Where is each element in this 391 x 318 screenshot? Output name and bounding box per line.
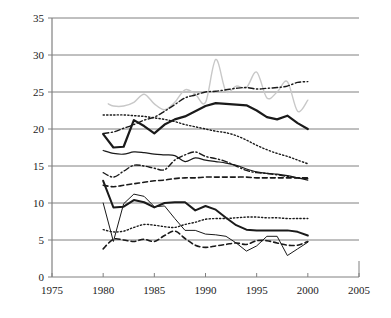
x-tick-label: 2005 bbox=[348, 285, 370, 296]
series-line-series-1-gray-solid bbox=[108, 59, 308, 111]
y-tick-label: 15 bbox=[0, 161, 44, 172]
y-tick-label: 35 bbox=[0, 13, 44, 24]
series-line-series-7-dashed-mid bbox=[103, 177, 308, 187]
line-chart: 05101520253035 1975198019851990199520002… bbox=[0, 0, 391, 318]
series-line-series-2-dashdot-upper bbox=[103, 82, 308, 134]
y-tick-label: 0 bbox=[0, 272, 44, 283]
y-tick-label: 30 bbox=[0, 50, 44, 61]
x-tick-label: 2000 bbox=[297, 285, 319, 296]
chart-plot-area bbox=[0, 0, 391, 318]
y-tick-label: 10 bbox=[0, 198, 44, 209]
x-tick-label: 1980 bbox=[92, 285, 114, 296]
axes bbox=[52, 18, 359, 277]
y-tick-label: 20 bbox=[0, 124, 44, 135]
x-tick-label: 1990 bbox=[195, 285, 217, 296]
y-tick-label: 5 bbox=[0, 235, 44, 246]
data-series-group bbox=[103, 59, 308, 255]
x-tick-label: 1975 bbox=[41, 285, 63, 296]
axis-ticks bbox=[48, 18, 359, 277]
x-tick-label: 1995 bbox=[246, 285, 268, 296]
series-line-series-6-dashdot-mid bbox=[103, 152, 308, 179]
y-tick-label: 25 bbox=[0, 87, 44, 98]
x-tick-label: 1985 bbox=[143, 285, 165, 296]
